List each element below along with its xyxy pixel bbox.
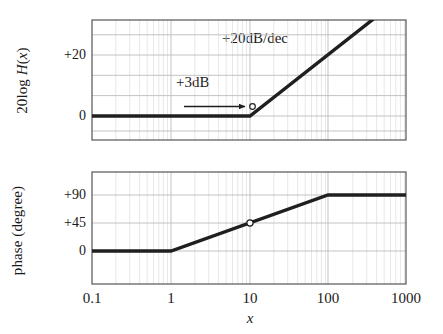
bode-plot-figure: 20log H(x) +20 0 +20dB/dec +3dB phase (d… [0, 0, 443, 334]
phase-plot-frame [92, 172, 406, 284]
magnitude-major-gridlines [92, 20, 406, 140]
magnitude-minor-gridlines [116, 20, 405, 140]
magnitude-curve [92, 0, 406, 116]
magnitude-plot-frame [92, 20, 406, 140]
phase-midpoint-marker [247, 220, 253, 226]
phase-major-gridlines [92, 172, 406, 284]
phase-minor-gridlines [116, 172, 405, 284]
magnitude-curve-group [92, 0, 406, 116]
plot-canvas [0, 0, 443, 334]
magnitude-corner-marker [250, 104, 256, 110]
